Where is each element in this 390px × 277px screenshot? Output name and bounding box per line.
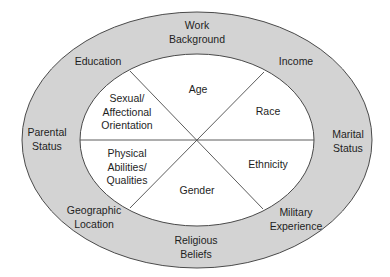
label-line: Ethnicity: [248, 158, 288, 172]
label-ethnicity: Ethnicity: [248, 158, 288, 172]
label-sexual-orientation: Sexual/ Affectional Orientation: [101, 92, 152, 133]
label-line: Abilities/: [107, 160, 148, 174]
label-line: Beliefs: [174, 247, 217, 261]
label-line: Experience: [270, 219, 323, 233]
label-education: Education: [75, 55, 122, 69]
label-line: Background: [169, 32, 225, 46]
label-marital-status: Marital Status: [332, 128, 364, 155]
label-line: Orientation: [101, 119, 152, 133]
label-line: Education: [75, 55, 122, 69]
label-line: Parental: [27, 126, 66, 140]
label-line: Gender: [179, 184, 214, 198]
label-race: Race: [256, 105, 281, 119]
label-physical-abilities: Physical Abilities/ Qualities: [107, 147, 148, 188]
label-line: Qualities: [107, 174, 148, 188]
label-income: Income: [279, 55, 313, 69]
label-line: Affectional: [101, 105, 152, 119]
label-line: Age: [189, 83, 208, 97]
label-gender: Gender: [179, 184, 214, 198]
label-work-background: Work Background: [169, 19, 225, 46]
label-line: Race: [256, 105, 281, 119]
label-age: Age: [189, 83, 208, 97]
label-line: Physical: [107, 147, 148, 161]
label-line: Marital: [332, 128, 364, 142]
label-line: Sexual/: [101, 92, 152, 106]
label-line: Location: [67, 217, 121, 231]
label-line: Income: [279, 55, 313, 69]
label-line: Status: [27, 139, 66, 153]
label-line: Work: [169, 19, 225, 33]
label-religious-beliefs: Religious Beliefs: [174, 234, 217, 261]
label-line: Geographic: [67, 204, 121, 218]
label-line: Status: [332, 141, 364, 155]
label-line: Religious: [174, 234, 217, 248]
label-parental-status: Parental Status: [27, 126, 66, 153]
label-line: Military: [270, 206, 323, 220]
label-geographic-location: Geographic Location: [67, 204, 121, 231]
label-military-experience: Military Experience: [270, 206, 323, 233]
